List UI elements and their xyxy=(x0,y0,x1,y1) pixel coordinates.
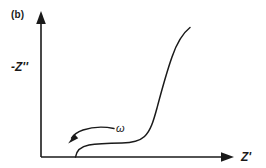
panel-label: (b) xyxy=(11,10,24,20)
x-axis-label: Z' xyxy=(241,151,251,163)
impedance-curve xyxy=(76,28,191,158)
nyquist-curve-path xyxy=(76,28,191,158)
nyquist-plot-figure: (b) -Z'' Z' ω xyxy=(0,0,266,168)
y-axis xyxy=(36,11,46,157)
plot-canvas xyxy=(0,0,266,168)
y-axis-label: -Z'' xyxy=(11,61,28,73)
arrow-up-icon xyxy=(36,11,46,24)
omega-direction-arrow xyxy=(68,127,114,143)
curved-arrow-left-icon-tail xyxy=(72,127,115,138)
x-axis xyxy=(41,152,234,162)
omega-annotation-label: ω xyxy=(116,123,125,134)
arrow-right-icon xyxy=(221,152,234,162)
